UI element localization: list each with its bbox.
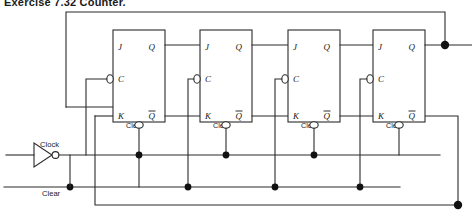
ff3-clock-inversion-bubble-icon (282, 75, 288, 83)
figure-canvas: Exercise 7.32 Counter. Clock Clear (0, 0, 472, 219)
flipflop-1[interactable]: J C K Q Q Clear (107, 30, 165, 130)
ff4-clock-inversion-bubble-icon (367, 75, 373, 83)
flipflop-2[interactable]: J C K Q Q Clear (194, 30, 252, 130)
ff1-q-label: Q (149, 42, 156, 52)
ff3-c-label: C (293, 74, 300, 84)
ff2-k-label: K (204, 111, 212, 121)
ff1-clock-inversion-bubble-icon (107, 75, 113, 83)
ff4-q-label: Q (409, 42, 416, 52)
ff3-clear-inversion-bubble-icon (310, 122, 318, 128)
junction-dot-icon (311, 152, 318, 159)
junction-dot-icon (223, 152, 230, 159)
ff4-c-label: C (378, 74, 385, 84)
junction-dot-icon (185, 184, 192, 191)
ff2-c-label: C (205, 74, 212, 84)
ff3-qbar-label: Q (324, 111, 331, 121)
flipflop-3[interactable]: J C K Q Q Clear (282, 30, 340, 130)
inverter-bubble-icon (52, 152, 59, 159)
ff4-clear-inversion-bubble-icon (395, 122, 403, 128)
junction-dot-icon (357, 184, 364, 191)
ff1-k-label: K (117, 111, 125, 121)
ff3-q-label: Q (324, 42, 331, 52)
clock-label: Clock (40, 140, 59, 149)
feedback-qbar-to-k-wire (95, 116, 458, 205)
ff4-qbar-label: Q (409, 111, 416, 121)
ff3-k-label: K (292, 111, 300, 121)
clear-label: Clear (42, 189, 61, 198)
ff2-clear-inversion-bubble-icon (222, 122, 230, 128)
junction-dot-icon (441, 41, 449, 49)
ff1-clear-inversion-bubble-icon (135, 122, 143, 128)
junction-dot-icon (272, 184, 279, 191)
clock-input-group: Clock (6, 140, 59, 167)
junction-dot-icon (454, 201, 462, 209)
ff2-clock-inversion-bubble-icon (194, 75, 200, 83)
junction-dot-icon (136, 152, 143, 159)
ff1-c-label: C (118, 74, 125, 84)
ff1-qbar-label: Q (149, 111, 156, 121)
ff4-k-label: K (377, 111, 385, 121)
circuit-schematic: Clock Clear J C K Q Q Clear (0, 0, 472, 219)
ff2-q-label: Q (236, 42, 243, 52)
clear-input-group: Clear (4, 184, 400, 198)
ff2-qbar-label: Q (236, 111, 243, 121)
flipflop-4[interactable]: J C K Q Q Clear (367, 30, 425, 130)
